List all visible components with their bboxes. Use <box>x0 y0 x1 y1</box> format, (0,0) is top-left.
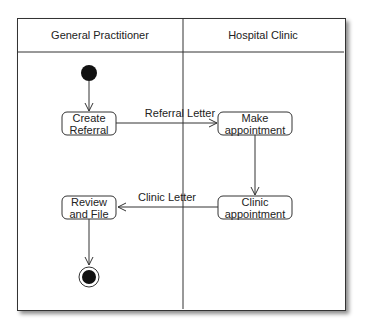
activity-review-and-file: Review and File <box>62 196 116 220</box>
svg-text:appointment: appointment <box>225 208 286 220</box>
activity-make-appointment: Make appointment <box>218 112 292 136</box>
lane-header-hospital-clinic: Hospital Clinic <box>228 29 298 41</box>
svg-text:appointment: appointment <box>225 124 286 136</box>
svg-text:Clinic: Clinic <box>242 196 269 208</box>
flow-label-clinic-letter: Clinic Letter <box>138 191 196 203</box>
svg-text:Create: Create <box>72 112 105 124</box>
activity-diagram: General Practitioner Hospital Clinic Cre… <box>0 0 365 326</box>
svg-text:Referral: Referral <box>69 124 108 136</box>
svg-text:Review: Review <box>71 196 107 208</box>
flow-label-referral-letter: Referral Letter <box>145 107 216 119</box>
activity-create-referral: Create Referral <box>62 112 116 136</box>
lane-header-general-practitioner: General Practitioner <box>51 29 149 41</box>
svg-text:Make: Make <box>242 112 269 124</box>
start-node <box>81 65 97 81</box>
end-node <box>79 267 99 287</box>
activity-clinic-appointment: Clinic appointment <box>218 196 292 220</box>
svg-text:and File: and File <box>69 208 108 220</box>
